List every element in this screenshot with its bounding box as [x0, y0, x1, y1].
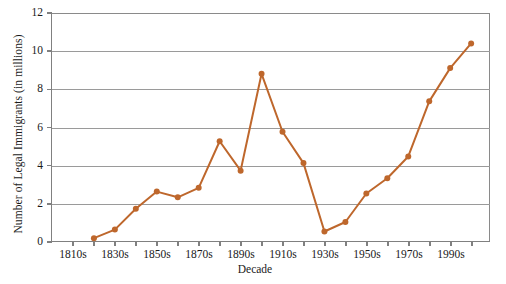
immigration-line-chart: Number of Legal Immigrants (in millions)… — [0, 0, 506, 284]
y-tick-label: 8 — [3, 83, 43, 95]
data-point-marker — [342, 219, 348, 225]
x-tick-mark — [282, 241, 284, 246]
data-point-marker — [300, 160, 306, 166]
x-tick-mark — [471, 241, 473, 246]
series-polyline — [94, 43, 471, 238]
x-tick-mark — [93, 241, 95, 246]
x-tick-label: 1990s — [416, 249, 486, 261]
x-tick-mark — [324, 241, 326, 246]
y-tick-label: 0 — [3, 236, 43, 248]
data-point-marker — [91, 235, 97, 241]
x-tick-mark — [135, 241, 137, 246]
x-tick-mark — [366, 241, 368, 246]
x-tick-mark — [198, 241, 200, 246]
y-tick-mark — [47, 241, 52, 243]
x-tick-mark — [261, 241, 263, 246]
data-point-marker — [175, 194, 181, 200]
data-point-marker — [133, 206, 139, 212]
data-point-marker — [384, 175, 390, 181]
x-tick-mark — [219, 241, 221, 246]
data-point-marker — [112, 227, 118, 233]
x-tick-mark — [240, 241, 242, 246]
x-tick-mark — [387, 241, 389, 246]
series-line — [52, 13, 490, 241]
data-point-marker — [363, 191, 369, 197]
data-point-marker — [426, 98, 432, 104]
x-tick-mark — [177, 241, 179, 246]
data-point-marker — [468, 40, 474, 46]
x-tick-mark — [156, 241, 158, 246]
data-point-marker — [259, 71, 265, 77]
x-tick-mark — [408, 241, 410, 246]
data-point-marker — [405, 153, 411, 159]
x-tick-mark — [114, 241, 116, 246]
y-tick-label: 10 — [3, 45, 43, 57]
y-tick-label: 12 — [3, 7, 43, 19]
y-tick-label: 2 — [3, 198, 43, 210]
x-tick-mark — [429, 241, 431, 246]
data-point-marker — [238, 168, 244, 174]
x-tick-mark — [72, 241, 74, 246]
plot-area: 024681012 1810s1830s1850s1870s1890s1910s… — [51, 13, 490, 242]
data-point-marker — [196, 185, 202, 191]
data-point-marker — [280, 129, 286, 135]
data-point-marker — [154, 189, 160, 195]
y-tick-label: 4 — [3, 160, 43, 172]
x-axis-title: Decade — [215, 263, 295, 275]
x-tick-mark — [303, 241, 305, 246]
data-point-marker — [217, 138, 223, 144]
data-point-marker — [447, 65, 453, 71]
x-tick-mark — [345, 241, 347, 246]
y-tick-label: 6 — [3, 122, 43, 134]
x-tick-mark — [450, 241, 452, 246]
data-point-marker — [321, 229, 327, 235]
